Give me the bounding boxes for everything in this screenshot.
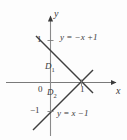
math-figure-coordinate-plane: y x 1 −1 1 0 y = −x +1 y = x −1 D1 D2 (0, 0, 127, 140)
x-axis-tick-label-one: 1 (80, 85, 85, 94)
region-d2-subscript: 2 (54, 92, 57, 99)
equation-label-ascending-line: y = x −1 (57, 109, 88, 118)
region-d1-subscript: 1 (52, 66, 55, 73)
y-axis-tick-label-negative-one: −1 (30, 106, 40, 115)
region-label-d1: D1 (45, 62, 55, 73)
y-axis-tick-label-one: 1 (37, 35, 42, 44)
x-axis-label: x (116, 86, 120, 96)
equation-label-descending-line: y = −x +1 (60, 33, 97, 42)
line-ascending-y-equals-x-minus-one (33, 70, 93, 130)
coordinate-plane-drawing (0, 0, 127, 140)
origin-label: 0 (38, 85, 43, 94)
y-axis-label: y (54, 9, 58, 19)
region-label-d2: D2 (47, 88, 57, 99)
